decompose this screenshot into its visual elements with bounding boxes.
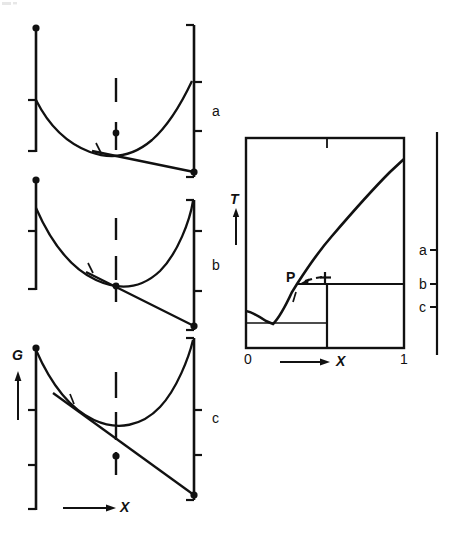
panel-c (28, 338, 202, 510)
temperature-axis-label: T (230, 192, 239, 206)
phase-diagram-direction-tick (293, 292, 296, 302)
panel-c-free-energy-curve (36, 340, 193, 426)
x-tick-label-zero: 0 (244, 352, 252, 366)
panel-label-c: c (212, 411, 219, 425)
panel-a-right-axis (186, 25, 202, 177)
panel-a-composition-point (113, 130, 120, 137)
temperature-scale-label-b: b (419, 277, 427, 291)
panel-a (28, 24, 202, 177)
panel-a-common-tangent (92, 151, 194, 172)
scan-artifact (2, 2, 17, 5)
composition-axis-arrow-left (63, 504, 116, 511)
panel-label-a: a (212, 104, 220, 118)
thermodynamics-figure (0, 0, 452, 534)
panel-b-composition-point (113, 283, 120, 290)
panel-b-common-tangent (86, 272, 194, 326)
phase-diagram-tie-line-arrow (301, 272, 331, 285)
gibbs-energy-axis-arrow (15, 371, 22, 420)
panel-c-common-tangent (53, 393, 194, 495)
panel-a-composition-dashed-line (113, 78, 120, 150)
panel-c-composition-point (112, 452, 119, 459)
panel-c-right-axis (186, 338, 202, 500)
temperature-axis-arrow (233, 208, 239, 245)
panel-c-composition-dashed-line (112, 372, 119, 475)
panel-c-left-axis (28, 344, 40, 510)
panel-label-b: b (212, 258, 220, 272)
temperature-scale-label-c: c (419, 300, 426, 314)
x-tick-label-one: 1 (400, 352, 408, 366)
composition-axis-arrow-right (280, 358, 330, 365)
phase-diagram (246, 138, 404, 348)
panel-b-left-endpoint (32, 176, 39, 183)
composition-axis-label-left: X (120, 500, 129, 514)
point-label-p: P (286, 270, 295, 284)
temperature-scale (430, 132, 437, 355)
panel-b-free-energy-curve (36, 201, 193, 286)
phase-diagram-liquidus-curve (246, 159, 404, 324)
composition-axis-label-right: X (336, 354, 345, 368)
panel-b (28, 176, 202, 330)
temperature-scale-label-a: a (419, 243, 427, 257)
gibbs-energy-axis-label: G (12, 348, 23, 362)
panel-a-left-axis (28, 24, 40, 152)
panel-b-left-axis (28, 176, 40, 290)
panel-b-tangency-tick (88, 263, 93, 273)
panel-a-free-energy-curve (36, 81, 192, 156)
panel-a-left-endpoint (32, 24, 39, 31)
